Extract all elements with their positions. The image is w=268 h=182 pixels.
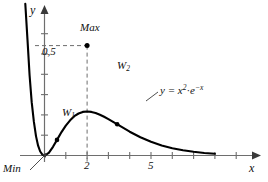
inflection-1-letter: W bbox=[62, 106, 71, 118]
function-exponent-minus-x: −x bbox=[195, 83, 203, 92]
function-equation-label: y = x2·e−x bbox=[160, 84, 203, 96]
x-axis-label: x bbox=[249, 162, 254, 174]
inflection-2-subscript: 2 bbox=[126, 64, 130, 73]
function-lhs: y = x bbox=[160, 84, 183, 96]
inflection-2-marker bbox=[115, 122, 120, 127]
plot-canvas bbox=[0, 0, 268, 182]
max-point-label: Max bbox=[80, 22, 100, 33]
y-axis-arrowhead bbox=[41, 5, 49, 14]
min-point-label: Min bbox=[3, 163, 21, 174]
function-graph-figure: y x 2 5 0,5 Max Min W1 W2 y = x2·e−x bbox=[0, 0, 268, 182]
x-tick-label-5: 5 bbox=[148, 160, 154, 171]
x-axis-arrowhead bbox=[252, 152, 261, 160]
x-axis bbox=[20, 152, 261, 160]
inflection-2-letter: W bbox=[117, 59, 126, 71]
inflection-1-label: W1 bbox=[62, 107, 75, 120]
y-value-label-0-5: 0,5 bbox=[42, 46, 56, 57]
inflection-1-subscript: 1 bbox=[71, 111, 75, 120]
function-curve bbox=[25, 4, 215, 156]
x-tick-label-2: 2 bbox=[84, 160, 90, 171]
inflection-2-label: W2 bbox=[117, 60, 130, 73]
y-axis-label: y bbox=[30, 4, 35, 16]
inflection-1-marker bbox=[55, 138, 60, 143]
function-leader-line bbox=[146, 92, 158, 101]
y-axis bbox=[41, 5, 49, 162]
max-point-marker bbox=[85, 43, 90, 48]
